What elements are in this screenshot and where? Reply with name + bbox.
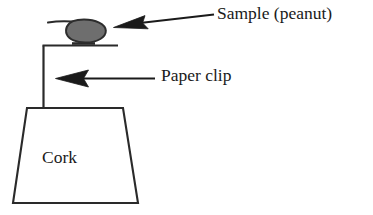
paper-clip-arrow-head xyxy=(56,70,89,87)
label-paper-clip: Paper clip xyxy=(161,65,231,85)
paper-clip-arrow xyxy=(56,70,156,87)
sample-arrow-shaft xyxy=(140,15,214,24)
label-cork: Cork xyxy=(42,147,77,167)
sample-peanut-shape xyxy=(66,20,106,43)
sample-arrow-head xyxy=(114,16,149,29)
diagram-canvas: Sample (peanut) Paper clip Cork xyxy=(0,0,373,215)
diagram-illustration xyxy=(0,0,373,215)
label-sample-peanut: Sample (peanut) xyxy=(217,3,332,23)
sample-arrow xyxy=(114,15,215,29)
